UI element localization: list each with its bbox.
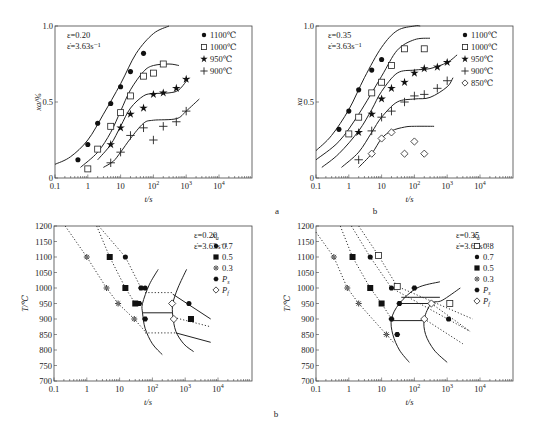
marker-square-open bbox=[394, 283, 400, 289]
y-tick-label: 0.5 bbox=[303, 97, 314, 107]
ps-boundary-curve bbox=[142, 269, 162, 354]
legend-label: 950℃ bbox=[210, 54, 232, 64]
legend-label: 0.7 bbox=[222, 241, 233, 251]
x-tick-label: 103 bbox=[179, 383, 191, 394]
x-tick-label: 102 bbox=[148, 180, 160, 191]
marker-plus bbox=[159, 122, 167, 130]
marker-square-open bbox=[108, 123, 114, 129]
marker-diamond-open bbox=[462, 80, 468, 86]
strain-annotation: ε=0.35 bbox=[328, 30, 351, 40]
marker-plus bbox=[461, 67, 468, 74]
chart-transformation-vs-time-eps035: 0.1110102103104t/s00.51.0xaε=0.35ε̇=3.63… bbox=[294, 21, 513, 204]
marker-star-filled bbox=[443, 58, 452, 66]
marker-circle-filled bbox=[346, 109, 351, 114]
chart-temperature-vs-time-eps035: 0.1110102103104t/s7007508008509009501000… bbox=[282, 221, 513, 407]
marker-diamond-open bbox=[411, 138, 418, 145]
series-08 bbox=[375, 252, 452, 306]
marker-square-open bbox=[447, 301, 453, 307]
marker-plus bbox=[126, 131, 134, 139]
marker-circle-filled bbox=[336, 127, 341, 132]
marker-asterisk bbox=[383, 332, 389, 338]
marker-square-open bbox=[95, 146, 101, 152]
marker-square-filled bbox=[107, 254, 113, 260]
legend-label: 0.3 bbox=[222, 263, 233, 273]
strain-rate-annotation: ε̇=3.63s⁻¹ bbox=[328, 41, 362, 51]
marker-plus bbox=[149, 136, 157, 144]
marker-circle-filled bbox=[123, 254, 128, 259]
y-tick-label: 1050 bbox=[297, 268, 314, 278]
panel-label: b bbox=[274, 409, 279, 419]
marker-square-open bbox=[421, 46, 427, 52]
legend-label: 850℃ bbox=[471, 78, 493, 88]
marker-circle-filled bbox=[475, 255, 479, 259]
x-tick-label: 10 bbox=[116, 181, 125, 191]
strain-annotation: ε=0.20 bbox=[67, 30, 90, 40]
marker-hexagon-filled bbox=[394, 332, 400, 337]
marker-circle-filled bbox=[141, 51, 146, 56]
marker-square-open bbox=[379, 79, 385, 85]
y-axis-title: xa bbox=[294, 98, 304, 107]
pf-boundary-curve bbox=[424, 288, 460, 362]
marker-plus bbox=[139, 124, 147, 132]
iso-fraction-line bbox=[99, 226, 141, 288]
y-tick-label: 1000 bbox=[297, 283, 314, 293]
marker-star-filled bbox=[433, 63, 442, 71]
series-03 bbox=[331, 254, 390, 338]
y-tick-label: 0.5 bbox=[42, 97, 53, 107]
marker-hexagon-filled bbox=[213, 277, 218, 282]
x-axis-title: t/s bbox=[144, 397, 153, 407]
marker-square-open bbox=[375, 252, 381, 258]
y-tick-label: 0 bbox=[310, 173, 314, 183]
marker-star-filled bbox=[200, 55, 207, 62]
y-tick-label: 1200 bbox=[297, 221, 314, 231]
x-axis: 0.1110102103104t/s bbox=[50, 175, 251, 205]
marker-diamond-open bbox=[213, 287, 219, 293]
legend-label: Ps bbox=[221, 274, 230, 285]
marker-square-open bbox=[462, 44, 467, 49]
marker-square-open bbox=[127, 93, 133, 99]
y-tick-label: 1150 bbox=[297, 237, 314, 247]
x-tick-label: 1 bbox=[347, 384, 351, 394]
marker-circle-filled bbox=[202, 33, 206, 37]
marker-plus bbox=[116, 148, 124, 156]
marker-asterisk bbox=[213, 265, 218, 270]
marker-square-filled bbox=[213, 254, 218, 259]
x-tick-label: 102 bbox=[147, 383, 159, 394]
marker-diamond-open bbox=[421, 315, 428, 322]
marker-square-filled bbox=[350, 254, 356, 260]
series-05 bbox=[107, 254, 194, 322]
legend-label: Ps bbox=[482, 285, 491, 296]
marker-square-filled bbox=[367, 285, 373, 291]
marker-plus bbox=[387, 107, 395, 115]
marker-hexagon-filled bbox=[138, 285, 144, 290]
legend-label: 0.8 bbox=[483, 241, 494, 251]
pf-boundary-curve bbox=[172, 269, 193, 351]
marker-diamond-open bbox=[170, 315, 177, 322]
plot-area bbox=[316, 226, 473, 362]
marker-star-filled bbox=[461, 55, 468, 62]
y-axis: 70075080085090095010001050110011501200T/… bbox=[20, 221, 57, 386]
x-tick-label: 103 bbox=[441, 180, 453, 191]
legend-label: 900℃ bbox=[471, 66, 493, 76]
series-1100 bbox=[336, 57, 384, 132]
marker-circle-filled bbox=[186, 301, 191, 306]
x-tick-label: 103 bbox=[180, 180, 192, 191]
legend-title: xa bbox=[211, 230, 219, 241]
legend-label: 950℃ bbox=[471, 54, 493, 64]
marker-diamond-open bbox=[169, 300, 176, 307]
marker-diamond-open bbox=[401, 150, 408, 157]
x-tick-label: 1 bbox=[347, 181, 351, 191]
y-tick-label: 1100 bbox=[35, 252, 52, 262]
marker-square-open bbox=[160, 61, 166, 67]
y-tick-label: 700 bbox=[39, 376, 52, 386]
marker-circle-filled bbox=[85, 142, 90, 147]
x-tick-label: 102 bbox=[409, 383, 421, 394]
y-tick-label: 850 bbox=[301, 330, 314, 340]
x-axis: 0.1110102103104t/s bbox=[311, 175, 512, 205]
x-tick-label: 1 bbox=[85, 384, 89, 394]
marker-hexagon-filled bbox=[411, 285, 417, 290]
y-tick-label: 1000 bbox=[35, 283, 52, 293]
y-tick-label: 950 bbox=[39, 299, 52, 309]
marker-square-filled bbox=[379, 301, 385, 307]
marker-plus bbox=[200, 67, 207, 74]
